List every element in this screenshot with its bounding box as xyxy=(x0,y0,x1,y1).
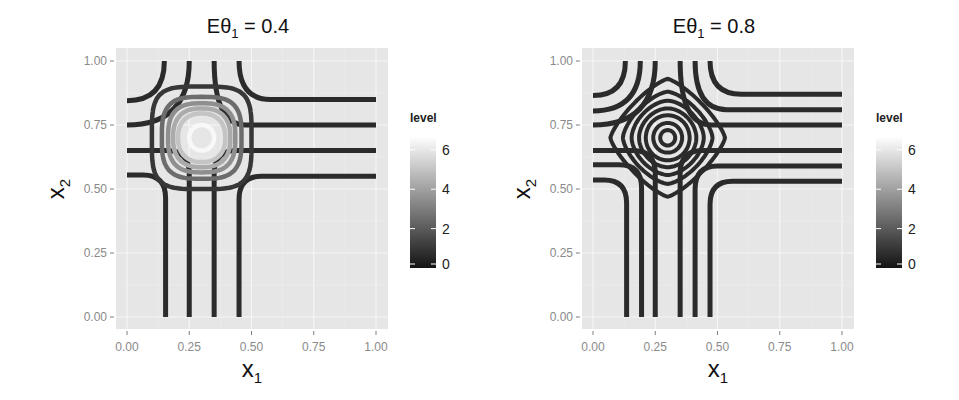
y-tick-label: 0.00 xyxy=(84,310,108,324)
legend-title: level xyxy=(876,111,903,125)
y-tick-label: 0.25 xyxy=(84,246,108,260)
x-tick-label: 1.00 xyxy=(830,340,854,354)
legend-tick-label: 2 xyxy=(442,221,450,237)
y-tick-label: 0.75 xyxy=(550,118,574,132)
y-tick-label: 0.75 xyxy=(84,118,108,132)
y-tick-label: 0.25 xyxy=(550,246,574,260)
x-tick-label: 0.75 xyxy=(768,340,792,354)
legend-tick-label: 4 xyxy=(442,181,450,197)
legend-tick-label: 0 xyxy=(908,256,916,272)
legend-tick-label: 2 xyxy=(908,221,916,237)
legend-tick-label: 0 xyxy=(442,256,450,272)
x-tick-label: 0.50 xyxy=(706,340,730,354)
x-tick-label: 0.00 xyxy=(115,340,139,354)
legend-tick-label: 4 xyxy=(908,181,916,197)
legend-tick-label: 6 xyxy=(442,142,450,158)
x-axis-title: x1 xyxy=(708,355,728,386)
plot-left: Eθ1 = 0.40.000.250.500.751.000.000.250.5… xyxy=(0,0,480,400)
x-tick-label: 0.75 xyxy=(302,340,326,354)
legend-colorbar: level0246 xyxy=(410,111,450,272)
y-axis-title: x2 xyxy=(508,179,539,199)
chart-title: Eθ1 = 0.8 xyxy=(673,15,755,41)
legend-colorbar: level0246 xyxy=(876,111,916,272)
y-tick-label: 0.50 xyxy=(550,182,574,196)
plot-right: Eθ1 = 0.80.000.250.500.751.000.000.250.5… xyxy=(466,0,946,400)
x-tick-label: 0.25 xyxy=(178,340,202,354)
x-tick-label: 1.00 xyxy=(364,340,388,354)
y-tick-label: 0.50 xyxy=(84,182,108,196)
x-tick-label: 0.00 xyxy=(581,340,605,354)
legend-title: level xyxy=(410,111,437,125)
y-tick-label: 1.00 xyxy=(84,54,108,68)
x-tick-label: 0.25 xyxy=(644,340,668,354)
y-axis-title: x2 xyxy=(42,179,73,199)
x-tick-label: 0.50 xyxy=(240,340,264,354)
y-tick-label: 0.00 xyxy=(550,310,574,324)
contour-panel-left: Eθ1 = 0.40.000.250.500.751.000.000.250.5… xyxy=(0,0,480,400)
legend-tick-label: 6 xyxy=(908,142,916,158)
x-axis-title: x1 xyxy=(242,355,262,386)
chart-title: Eθ1 = 0.4 xyxy=(207,15,289,41)
y-tick-label: 1.00 xyxy=(550,54,574,68)
contour-panel-right: Eθ1 = 0.80.000.250.500.751.000.000.250.5… xyxy=(466,0,946,400)
